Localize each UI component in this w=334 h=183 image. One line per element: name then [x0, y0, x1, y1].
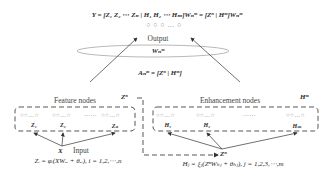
enhancement-group-m-nodes: ○○…○ [286, 112, 305, 118]
arrow-x-to-zn [62, 133, 115, 146]
enhancement-group-1-nodes: ○○…○ [156, 112, 175, 118]
enhancement-nodes-title: Enhancement nodes [200, 96, 260, 105]
arrow-x-to-z2 [62, 133, 63, 146]
feature-group-label: Zⁿ [121, 93, 128, 101]
input-label: Input [73, 146, 89, 155]
zn-connector-label: Zⁿ [220, 150, 227, 158]
feature-nodes-title: Feature nodes [54, 96, 96, 105]
enhancement-group-1-label: H₁ [165, 122, 172, 128]
output-nodes: ○ ○ ○ … ○ [146, 21, 181, 29]
arrow-zn-to-h1 [168, 133, 222, 149]
weight-label: Wₙᵐ [152, 46, 165, 55]
feature-equation: Zᵢ = φᵢ(XWₑᵢ + θₑᵢ), i = 1,2,⋯,n [35, 157, 122, 165]
enhancement-group-2-nodes: ○○…○ [196, 112, 215, 118]
enhancement-group-label: Hᵐ [300, 93, 309, 101]
feature-ellipsis: …… [84, 111, 97, 117]
arrow-x-to-z1 [34, 133, 62, 146]
enhancement-equation: Hⱼ = ξⱼ(ZⁿWₕⱼ + θₕⱼ), j = 1,2,3,⋯,m [182, 160, 283, 168]
feature-group-1-nodes: ○○…○ [20, 112, 39, 118]
output-label: Output [148, 34, 169, 43]
feature-group-n-nodes: ○○…○ [101, 112, 120, 118]
feature-group-n-label: Zₙ [112, 122, 118, 129]
arrow-zn-to-hm [222, 133, 297, 149]
enhancement-group-2-label: H₂ [204, 122, 211, 128]
feature-group-1-label: Z₁ [31, 122, 37, 128]
enhancement-ellipsis: …… [243, 111, 256, 117]
output-equation: Y = [Z₁ Z₂ ⋯ Zₙ | H₁ H₂ ⋯ Hₘ]Wₙᵐ = [Zⁿ |… [92, 10, 243, 19]
feature-group-2-nodes: ○○…○ [52, 112, 71, 118]
arrow-feature-to-output [90, 38, 137, 82]
enhancement-group-m-label: Hₘ [292, 122, 301, 129]
arrow-enhancement-to-output [191, 38, 240, 82]
input-symbol: X [58, 147, 63, 155]
a-equation: Aₙᵐ = [Zⁿ | Hᵐ] [138, 68, 182, 77]
feature-group-2-label: Z₂ [60, 122, 66, 128]
